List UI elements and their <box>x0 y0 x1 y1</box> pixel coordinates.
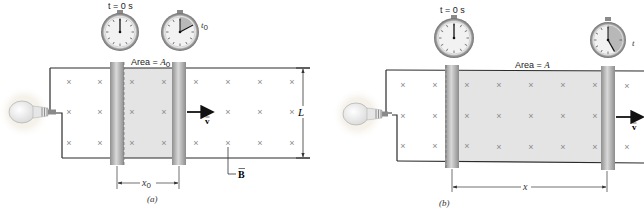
wire-left-lower-a <box>56 113 62 158</box>
panel-b: ×××××××× ××××××× ×××××××× v x <box>332 5 644 208</box>
svg-text:×: × <box>66 138 71 148</box>
svg-text:×: × <box>592 80 597 90</box>
svg-text:×: × <box>161 107 166 117</box>
panel-a: ×××××××× ××××××× ×××××××× v L B x0 <box>0 1 310 204</box>
svg-text:×: × <box>400 80 405 90</box>
svg-text:×: × <box>464 141 469 151</box>
svg-text:×: × <box>432 80 437 90</box>
stopwatch-start-icon-a <box>101 10 139 51</box>
svg-text:×: × <box>400 141 405 151</box>
svg-text:×: × <box>464 80 469 90</box>
displacement-label-b: x <box>522 181 528 192</box>
stopwatch-start-icon-b <box>434 15 474 58</box>
svg-text:×: × <box>528 111 533 121</box>
faraday-diagram: ×××××××× ××××××× ×××××××× v L B x0 <box>0 0 644 212</box>
stopwatch-end-icon-b <box>590 17 626 58</box>
svg-text:×: × <box>225 77 230 87</box>
svg-text:×: × <box>496 111 501 121</box>
initial-rod-b <box>445 65 459 168</box>
svg-text:×: × <box>400 111 405 121</box>
svg-text:×: × <box>289 107 294 117</box>
clock-end-label-a: t0 <box>201 20 209 32</box>
field-leader-a <box>228 147 236 174</box>
svg-text:×: × <box>624 81 629 91</box>
clock-end-label-b: t <box>632 38 635 48</box>
wire-left-b <box>386 70 392 113</box>
svg-text:×: × <box>560 111 565 121</box>
svg-text:×: × <box>129 138 134 148</box>
svg-text:×: × <box>432 141 437 151</box>
clock-start-label-b: t = 0 s <box>440 5 465 15</box>
svg-text:×: × <box>66 77 71 87</box>
area-label-b: Area = A <box>515 60 550 70</box>
svg-text:×: × <box>257 107 262 117</box>
svg-text:×: × <box>464 111 469 121</box>
clock-start-label-a: t = 0 s <box>108 1 133 11</box>
svg-text:×: × <box>129 77 134 87</box>
light-bulb-icon <box>0 86 56 138</box>
svg-text:×: × <box>97 77 102 87</box>
velocity-label-b: v <box>632 122 637 132</box>
svg-text:×: × <box>592 111 597 121</box>
svg-text:×: × <box>432 111 437 121</box>
svg-text:×: × <box>592 142 597 152</box>
svg-text:×: × <box>560 142 565 152</box>
svg-text:×: × <box>289 77 294 87</box>
svg-text:×: × <box>496 142 501 152</box>
svg-text:×: × <box>528 80 533 90</box>
initial-rod-a <box>110 62 124 165</box>
svg-text:×: × <box>225 138 230 148</box>
svg-text:×: × <box>193 138 198 148</box>
svg-text:×: × <box>161 138 166 148</box>
svg-text:×: × <box>528 142 533 152</box>
svg-text:×: × <box>66 107 71 117</box>
caption-a: (a) <box>147 194 158 204</box>
area-label-a: Area = A0 <box>131 57 171 69</box>
svg-text:×: × <box>193 77 198 87</box>
caption-b: (b) <box>439 198 450 208</box>
svg-text:×: × <box>560 80 565 90</box>
svg-text:×: × <box>161 77 166 87</box>
svg-text:×: × <box>97 138 102 148</box>
svg-text:×: × <box>257 77 262 87</box>
velocity-label-a: v <box>205 116 210 126</box>
light-bulb-icon <box>332 88 388 140</box>
moving-rod-b <box>601 66 615 170</box>
length-label-a: L <box>297 106 304 118</box>
wire-left-a <box>50 68 56 111</box>
svg-text:×: × <box>624 142 629 152</box>
wire-left-lower-b <box>392 115 397 161</box>
svg-text:×: × <box>225 107 230 117</box>
svg-text:×: × <box>257 138 262 148</box>
svg-text:×: × <box>496 80 501 90</box>
svg-text:×: × <box>129 107 134 117</box>
stopwatch-end-icon-a <box>161 10 199 51</box>
field-label-a: B <box>238 169 245 180</box>
svg-text:×: × <box>289 138 294 148</box>
moving-rod-a <box>172 62 186 165</box>
svg-text:×: × <box>97 107 102 117</box>
